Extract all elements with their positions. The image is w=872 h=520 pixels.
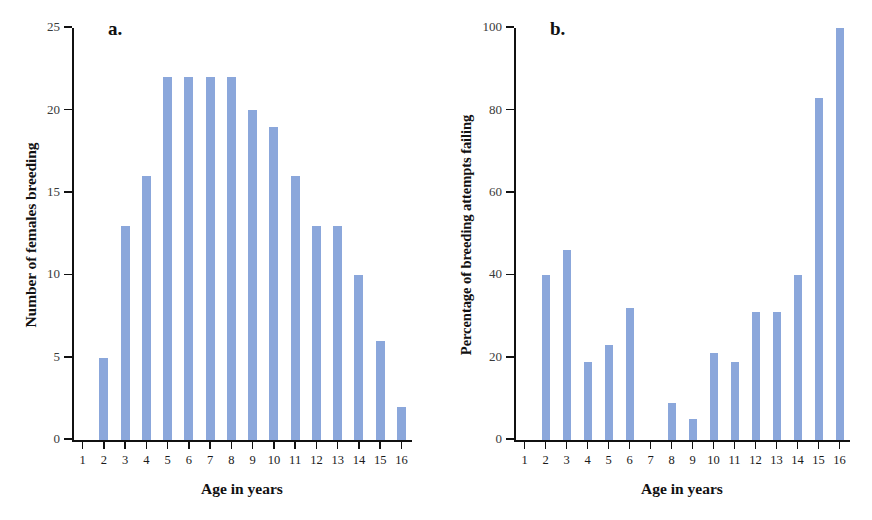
bar	[206, 77, 215, 440]
panel-b-x-tick	[566, 442, 568, 449]
panel-b-x-tick-label: 1	[521, 453, 527, 468]
panel-b-x-tick-label: 7	[647, 453, 653, 468]
panel-b-x-tick	[734, 442, 736, 449]
panel-b-y-tick-label: 20	[489, 349, 502, 365]
panel-a-y-tick: 0	[64, 438, 72, 440]
panel-b-x-tick	[587, 442, 589, 449]
panel-a-x-tick-label: 8	[228, 453, 234, 468]
panel-a-x-tick	[273, 442, 275, 449]
panel-b-x-tick-label: 5	[605, 453, 611, 468]
bar	[605, 345, 613, 440]
bar	[626, 308, 634, 440]
panel-a-x-tick-label: 10	[268, 453, 281, 468]
panel-a-y-tick: 25	[64, 26, 72, 28]
panel-a-x-tick-label: 1	[80, 453, 86, 468]
panel-a-y-axis-title: Number of females breeding	[22, 0, 44, 470]
panel-a-x-tick-label: 12	[310, 453, 323, 468]
caption-remnant	[0, 502, 872, 520]
panel-a-x-tick-label: 9	[250, 453, 256, 468]
panel-b-x-tick	[776, 442, 778, 449]
panel-a-x-tick-label: 3	[122, 453, 128, 468]
panel-a-x-tick	[401, 442, 403, 449]
panel-b-x-tick-label: 16	[833, 453, 846, 468]
panel-a-y-tick-label: 15	[47, 184, 60, 200]
panel-a-y-tick: 20	[64, 109, 72, 111]
panel-a-y-tick: 15	[64, 191, 72, 193]
panel-b-y-tick-label: 100	[483, 19, 503, 35]
panel-a-x-tick	[167, 442, 169, 449]
panel-a-x-tick-label: 4	[143, 453, 149, 468]
panel-a-x-tick	[188, 442, 190, 449]
panel-b-x-tick	[797, 442, 799, 449]
panel-b-y-tick: 80	[506, 109, 514, 111]
panel-a-x-tick	[103, 442, 105, 449]
panel-a-x-tick-label: 11	[289, 453, 301, 468]
panel-b-y-tick: 60	[506, 191, 514, 193]
panel-b-y-tick: 20	[506, 356, 514, 358]
panel-a-x-tick	[82, 442, 84, 449]
panel-a-x-tick-label: 13	[331, 453, 344, 468]
bar	[731, 362, 739, 440]
panel-b-x-tick	[545, 442, 547, 449]
panel-b-y-tick-label: 40	[489, 266, 502, 282]
bar	[668, 403, 676, 440]
bar	[163, 77, 172, 440]
panel-a-x-axis-line	[72, 440, 412, 442]
panel-a-y-axis-line	[72, 28, 74, 442]
panel-a-x-tick	[146, 442, 148, 449]
panel-a-x-tick	[209, 442, 211, 449]
bar	[354, 275, 363, 440]
panel-b-y-tick-label: 80	[489, 102, 502, 118]
panel-b-x-tick	[608, 442, 610, 449]
panel-b-x-tick	[839, 442, 841, 449]
panel-a-y-tick-label: 5	[54, 349, 61, 365]
panel-b-x-tick-label: 11	[728, 453, 740, 468]
bar	[689, 419, 697, 440]
panel-b-y-tick: 40	[506, 274, 514, 276]
bar	[815, 98, 823, 440]
panel-b-x-axis-line	[514, 440, 850, 442]
bar	[121, 226, 130, 440]
bar	[312, 226, 321, 440]
bar	[584, 362, 592, 440]
panel-b-x-tick-label: 9	[689, 453, 695, 468]
panel-b-x-axis-title: Age in years	[514, 480, 850, 498]
panel-b-x-tick	[713, 442, 715, 449]
panel-a-x-tick	[294, 442, 296, 449]
panel-b-x-tick	[524, 442, 526, 449]
bar	[773, 312, 781, 440]
panel-b-y-tick: 0	[506, 438, 514, 440]
bar	[542, 275, 550, 440]
bar	[99, 358, 108, 440]
panel-a-x-tick	[124, 442, 126, 449]
panel-b-x-tick-label: 15	[812, 453, 825, 468]
panel-a: Number of females breeding a. Age in yea…	[0, 0, 436, 500]
panel-b-x-tick	[818, 442, 820, 449]
panel-b-y-axis-title: Percentage of breeding attempts failing	[458, 0, 480, 470]
bar	[142, 176, 151, 440]
panel-a-x-tick	[316, 442, 318, 449]
panel-b-x-tick	[692, 442, 694, 449]
panel-b-y-tick-label: 60	[489, 184, 502, 200]
panel-b-x-tick-label: 3	[563, 453, 569, 468]
panel-b-x-tick	[650, 442, 652, 449]
bar	[710, 353, 718, 440]
panel-b-plot-area: Age in years 020406080100123456789101112…	[514, 28, 850, 442]
panel-a-x-axis-title: Age in years	[72, 480, 412, 498]
bar	[376, 341, 385, 440]
panel-a-x-tick	[337, 442, 339, 449]
panel-a-x-tick-label: 14	[353, 453, 366, 468]
bar	[794, 275, 802, 440]
panel-a-x-tick-label: 2	[101, 453, 107, 468]
panel-a-x-tick	[252, 442, 254, 449]
panel-b-x-tick-label: 12	[749, 453, 762, 468]
bar	[563, 250, 571, 440]
bar	[836, 28, 844, 440]
panel-b-x-tick-label: 10	[707, 453, 720, 468]
panel-b-x-tick-label: 14	[791, 453, 804, 468]
bar	[291, 176, 300, 440]
bar	[333, 226, 342, 440]
panel-a-x-tick-label: 5	[165, 453, 171, 468]
panel-b-y-axis-line	[514, 28, 516, 442]
panel-b-y-tick: 100	[506, 26, 514, 28]
